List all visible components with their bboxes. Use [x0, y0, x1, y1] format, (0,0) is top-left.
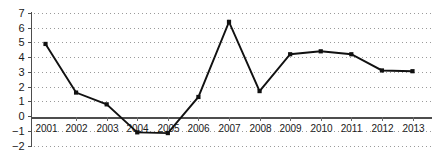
x-axis-tick-labels: 2001200220032004200520062007200820092010… — [35, 123, 425, 134]
data-point-marker — [349, 52, 353, 56]
x-tick-label: 2006 — [187, 123, 210, 134]
y-tick-label: 2 — [18, 81, 24, 93]
line-chart: 76543210−1−2 200120022003200420052006200… — [0, 0, 437, 161]
y-tick-label: 1 — [18, 95, 24, 107]
x-tick-label: 2002 — [65, 123, 88, 134]
data-point-marker — [166, 131, 170, 135]
data-series-line — [46, 22, 413, 133]
x-tick-label: 2012 — [371, 123, 394, 134]
data-point-marker — [410, 69, 414, 73]
x-tick-label: 2003 — [96, 123, 119, 134]
data-point-marker — [135, 130, 139, 134]
chart-canvas: 76543210−1−2 200120022003200420052006200… — [0, 0, 437, 161]
x-tick-label: 2011 — [341, 123, 363, 134]
x-tick-label: 2009 — [279, 123, 302, 134]
x-tick-label: 2001 — [35, 123, 58, 134]
y-tick-label: −1 — [12, 125, 25, 137]
y-axis-tick-labels: 76543210−1−2 — [12, 7, 25, 152]
y-tick-label: −2 — [12, 140, 25, 152]
data-point-marker — [227, 20, 231, 24]
data-point-marker — [74, 90, 78, 94]
data-point-marker — [196, 95, 200, 99]
x-tick-label: 2008 — [249, 123, 272, 134]
x-tick-label: 2013 — [402, 123, 425, 134]
data-point-marker — [319, 49, 323, 53]
y-tick-label: 5 — [18, 36, 24, 48]
y-tick-label: 7 — [18, 7, 24, 19]
data-point-marker — [288, 52, 292, 56]
x-tick-label: 2010 — [310, 123, 333, 134]
y-tick-label: 3 — [18, 66, 24, 78]
y-tick-label: 6 — [18, 22, 24, 34]
data-point-marker — [380, 68, 384, 72]
y-tick-label: 4 — [18, 51, 24, 63]
data-point-marker — [43, 42, 47, 46]
data-point-marker — [105, 102, 109, 106]
data-point-marker — [257, 89, 261, 93]
x-tick-label: 2007 — [218, 123, 241, 134]
y-tick-label: 0 — [18, 110, 24, 122]
